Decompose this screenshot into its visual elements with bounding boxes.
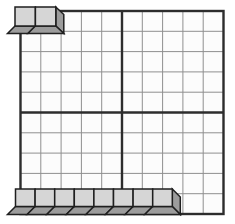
base-ten-grid-figure xyxy=(0,0,235,224)
bottom-cubes-face xyxy=(133,189,153,207)
bottom-cubes-face xyxy=(74,189,94,207)
bottom-cubes-face xyxy=(114,189,134,207)
bottom-cubes-face xyxy=(94,189,114,207)
bottom-cubes-face xyxy=(16,189,36,207)
bottom-cubes-face xyxy=(153,189,173,207)
grid-and-cubes-canvas xyxy=(0,0,235,224)
bottom-cubes-face xyxy=(35,189,55,207)
top-left-cubes-face xyxy=(35,7,55,26)
top-left-cubes-face xyxy=(15,7,35,26)
bottom-cubes-face xyxy=(55,189,75,207)
